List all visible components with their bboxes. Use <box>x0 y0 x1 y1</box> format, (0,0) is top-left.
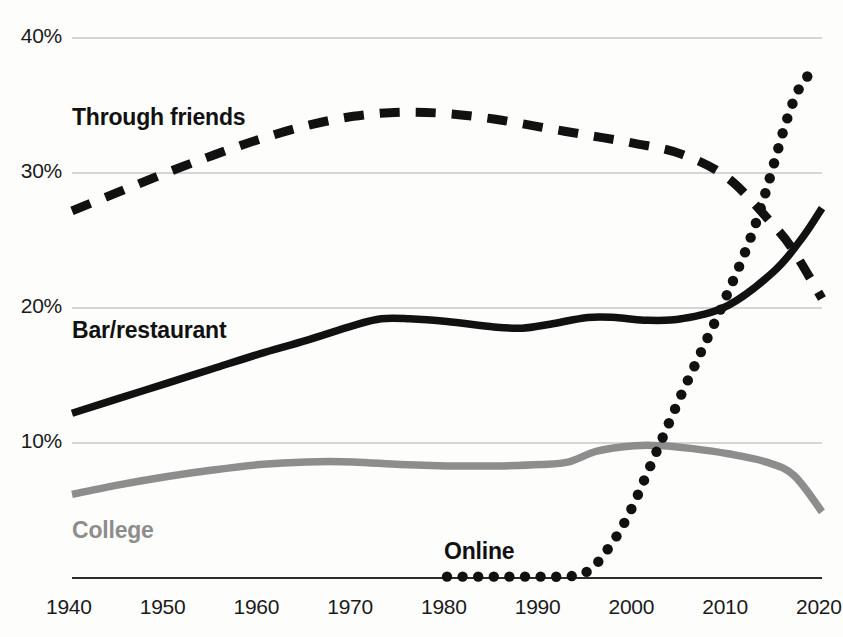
gridlines-group <box>72 38 822 443</box>
x-tick-2000: 2000 <box>609 595 655 619</box>
series-online-dot <box>782 113 792 123</box>
series-online-dot <box>645 461 655 471</box>
x-tick-1960: 1960 <box>234 595 280 619</box>
series-online-dot <box>751 218 761 228</box>
y-tick-40pct: 40% <box>0 24 62 48</box>
series-online-dot <box>709 319 719 329</box>
series-online-dot <box>442 571 452 581</box>
series-online-dot <box>702 333 712 343</box>
series-college-line <box>72 445 822 512</box>
series-online-dot <box>734 261 744 271</box>
series-online-dot <box>504 571 514 581</box>
series-online-dot <box>457 571 467 581</box>
label-bar-restaurant: Bar/restaurant <box>72 317 226 344</box>
series-online-dot <box>535 571 545 581</box>
series-online-dot <box>745 232 755 242</box>
series-online-dot <box>551 572 561 582</box>
series-online-dot <box>520 571 530 581</box>
series-online-dot <box>473 571 483 581</box>
x-tick-1950: 1950 <box>140 595 186 619</box>
label-through-friends: Through friends <box>72 104 245 131</box>
series-online-dot <box>639 475 649 485</box>
series-online-dot <box>793 84 803 94</box>
series-online-dot <box>602 544 612 554</box>
series-online-dot <box>787 98 797 108</box>
x-tick-1980: 1980 <box>421 595 467 619</box>
x-tick-1990: 1990 <box>515 595 561 619</box>
x-tick-1970: 1970 <box>327 595 373 619</box>
series-online-dot <box>619 518 629 528</box>
series-online-dot <box>802 71 812 81</box>
series-online-dot <box>689 361 699 371</box>
series-online-dot <box>676 389 686 399</box>
series-online-dot <box>651 447 661 457</box>
label-online: Online <box>444 538 514 565</box>
series-online-dot <box>765 173 775 183</box>
series-online-dot <box>664 418 674 428</box>
series-online-dot <box>626 504 636 514</box>
label-college: College <box>72 517 154 544</box>
series-online-dot <box>756 203 766 213</box>
y-tick-30pct: 30% <box>0 159 62 183</box>
series-online-dot <box>489 571 499 581</box>
x-tick-2020: 2020 <box>796 595 842 619</box>
series-online-dot <box>696 347 706 357</box>
series-online-dot <box>567 571 577 581</box>
series-online-dot <box>593 556 603 566</box>
series-through-friends-line <box>72 112 822 298</box>
series-online-dot <box>657 432 667 442</box>
series-online-dot <box>581 567 591 577</box>
series-online-dot <box>728 276 738 286</box>
y-tick-20pct: 20% <box>0 294 62 318</box>
series-online-dot <box>683 375 693 385</box>
series-online-dot <box>633 490 643 500</box>
series-bar-restaurant-line <box>72 208 822 413</box>
chart-container: 10%20%30%40% 194019501960197019801990200… <box>0 0 843 637</box>
x-tick-2010: 2010 <box>702 595 748 619</box>
series-online-dot <box>769 158 779 168</box>
series-online-dot <box>760 188 770 198</box>
series-online-dot <box>740 247 750 257</box>
series-online-dot <box>777 128 787 138</box>
y-tick-10pct: 10% <box>0 429 62 453</box>
series-online-dot <box>773 143 783 153</box>
series-online-dot <box>670 404 680 414</box>
x-tick-1940: 1940 <box>46 595 92 619</box>
series-online-dot <box>715 304 725 314</box>
series-online-dot <box>722 290 732 300</box>
series-online-dot <box>611 531 621 541</box>
